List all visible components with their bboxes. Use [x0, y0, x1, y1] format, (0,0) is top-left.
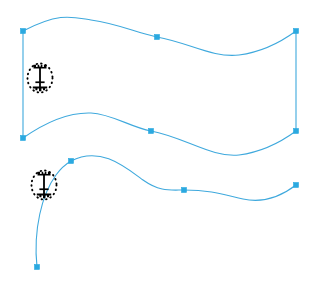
ibeam-stem — [43, 174, 45, 197]
canvas-background — [0, 0, 315, 286]
vector-editor-canvas[interactable]: I-beam text cursor with dotted selection… — [0, 0, 315, 286]
ibeam-mid-bar — [35, 81, 44, 83]
anchor-lower-right-end[interactable] — [294, 183, 299, 188]
anchor-upper-left-bottom[interactable] — [21, 136, 26, 141]
vector-artboard[interactable]: I-beam text cursor with dotted selection… — [0, 0, 315, 286]
anchor-lower-mid[interactable] — [182, 188, 187, 193]
ibeam-mid-bar — [39, 188, 48, 190]
anchor-upper-left-top[interactable] — [21, 29, 26, 34]
ibeam-stem — [39, 67, 41, 90]
anchor-upper-mid-top[interactable] — [155, 35, 160, 40]
anchor-upper-right-top[interactable] — [294, 29, 299, 34]
anchor-lower-start[interactable] — [35, 265, 40, 270]
anchor-upper-right-bottom[interactable] — [294, 129, 299, 134]
anchor-upper-mid-bottom[interactable] — [149, 129, 154, 134]
anchor-lower-upper-left[interactable] — [69, 159, 74, 164]
